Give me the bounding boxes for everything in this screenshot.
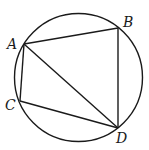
point-label-a: A [5,36,17,52]
segment-ab [24,28,118,44]
segment-ac [20,44,24,101]
point-label-b: B [122,14,133,30]
point-label-d: D [115,130,127,146]
circumscribed-circle [15,14,143,142]
geometry-diagram: A B C D [0,0,149,150]
point-label-c: C [5,97,16,113]
